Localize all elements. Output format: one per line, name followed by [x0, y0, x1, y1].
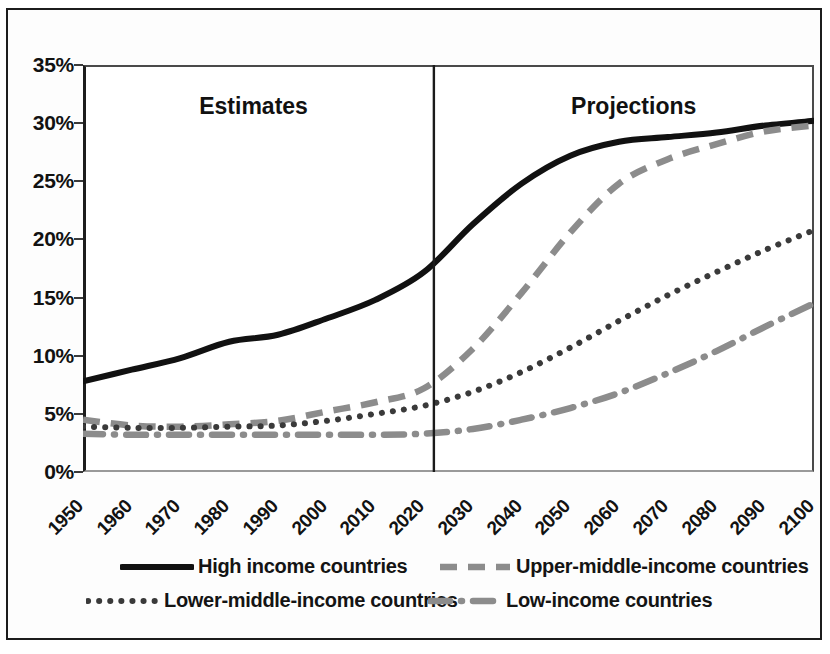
- legend-swatch-dashdot-icon: [428, 593, 502, 609]
- x-tick-label: 1980: [190, 495, 234, 539]
- figure-border: 35%30%25%20%15%10%5%0% EstimatesProjecti…: [6, 8, 822, 640]
- legend-label: Lower-middle-income countries: [164, 589, 458, 612]
- x-tick-label: 1970: [141, 495, 185, 539]
- y-tick-mark: [74, 180, 83, 182]
- series-line-1: [83, 125, 814, 426]
- y-tick-mark: [74, 413, 83, 415]
- x-tick-label: 1950: [43, 495, 87, 539]
- y-tick-mark: [74, 122, 83, 124]
- x-tick-label: 2010: [336, 495, 380, 539]
- y-tick-label: 35%: [33, 53, 74, 77]
- y-tick-mark: [74, 238, 83, 240]
- y-tick-mark: [74, 64, 83, 66]
- plot-annotation-projections: Projections: [571, 92, 696, 119]
- x-tick-label: 2100: [774, 495, 818, 539]
- y-tick-mark: [74, 471, 83, 473]
- chart-legend: High income countriesUpper-middle-income…: [8, 555, 830, 635]
- legend-swatch-dashed-icon: [438, 559, 512, 575]
- x-tick-label: 2090: [726, 495, 770, 539]
- y-tick-mark: [74, 297, 83, 299]
- legend-swatch-dotted-icon: [86, 593, 160, 609]
- legend-item-0[interactable]: High income countries: [120, 555, 407, 578]
- line-chart: 35%30%25%20%15%10%5%0% EstimatesProjecti…: [8, 10, 830, 550]
- legend-item-3[interactable]: Low-income countries: [428, 589, 712, 612]
- y-axis: 35%30%25%20%15%10%5%0%: [8, 65, 74, 472]
- legend-item-1[interactable]: Upper-middle-income countries: [438, 555, 808, 578]
- legend-swatch-solid-icon: [120, 559, 194, 575]
- series-layer: EstimatesProjections: [83, 65, 814, 472]
- y-tick-label: 10%: [33, 344, 74, 368]
- y-tick-label: 25%: [33, 169, 74, 193]
- legend-label: Upper-middle-income countries: [516, 555, 808, 578]
- plot-annotation-estimates: Estimates: [199, 92, 308, 119]
- legend-row: High income countriesUpper-middle-income…: [8, 555, 830, 585]
- y-tick-label: 20%: [33, 227, 74, 251]
- x-tick-label: 2070: [628, 495, 672, 539]
- x-tick-label: 2060: [579, 495, 623, 539]
- legend-item-2[interactable]: Lower-middle-income countries: [86, 589, 458, 612]
- x-tick-label: 2030: [433, 495, 477, 539]
- x-axis: 1950196019701980199020002010202020302040…: [83, 476, 814, 546]
- x-tick-label: 2020: [385, 495, 429, 539]
- x-tick-label: 1960: [92, 495, 136, 539]
- y-tick-label: 30%: [33, 111, 74, 135]
- y-tick-label: 5%: [44, 402, 74, 426]
- x-tick-label: 2050: [531, 495, 575, 539]
- x-tick-label: 2040: [482, 495, 526, 539]
- x-tick-label: 2080: [677, 495, 721, 539]
- y-tick-label: 0%: [44, 460, 74, 484]
- x-tick-label: 1990: [238, 495, 282, 539]
- legend-row: Lower-middle-income countriesLow-income …: [8, 589, 830, 619]
- series-line-2: [83, 230, 814, 428]
- y-tick-label: 15%: [33, 286, 74, 310]
- legend-label: High income countries: [198, 555, 407, 578]
- x-tick-label: 2000: [287, 495, 331, 539]
- series-svg: [83, 65, 814, 472]
- legend-label: Low-income countries: [506, 589, 712, 612]
- y-tick-mark: [74, 355, 83, 357]
- series-line-0: [83, 121, 814, 381]
